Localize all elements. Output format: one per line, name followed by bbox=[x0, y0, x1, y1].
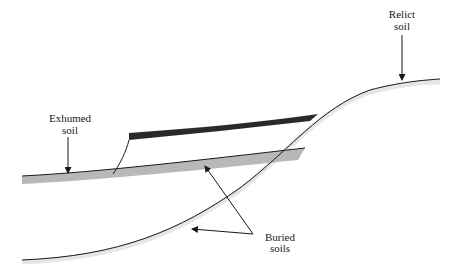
slope-surface-line bbox=[22, 79, 440, 260]
exhumed-label-line1: Exhumed bbox=[49, 112, 92, 124]
relict-label-line2: soil bbox=[394, 20, 410, 32]
buried-arrow-lower bbox=[192, 229, 253, 234]
buried-label-line2: soils bbox=[270, 242, 290, 254]
soil-cross-section-diagram: Relict soil Exhumed soil Buried soils bbox=[0, 0, 459, 278]
exhumed-label-line2: soil bbox=[62, 124, 78, 136]
buried-arrow-upper bbox=[205, 166, 253, 234]
relict-label-line1: Relict bbox=[389, 8, 415, 20]
buried-dark-soil-band bbox=[129, 114, 318, 140]
exhumed-soil-band bbox=[22, 148, 305, 184]
